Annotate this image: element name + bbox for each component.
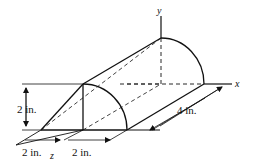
solid-diagram: 2 in. 4 in. 2 in. 2 in. y x z [0,0,254,167]
front-profile [41,84,127,130]
length-label: 4 in. [177,104,197,116]
back-arc [161,38,204,84]
height-label: 2 in. [17,103,37,115]
z-axis-label: z [49,150,54,161]
length-dimension [127,87,222,130]
bottom-right-label: 2 in. [72,146,92,158]
x-axis-label: x [234,78,240,89]
y-axis-label: y [156,5,162,16]
bottom-left-label: 2 in. [22,146,42,158]
z-axis [16,130,83,145]
